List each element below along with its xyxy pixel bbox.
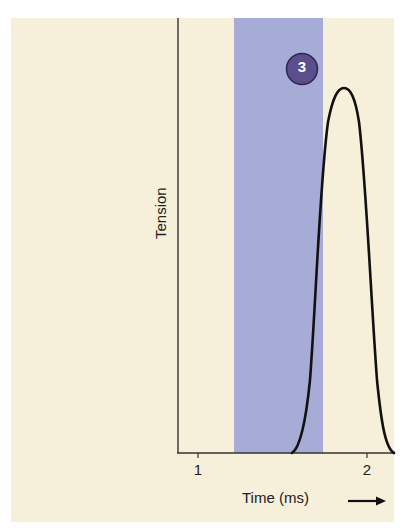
tension-chart	[0, 0, 410, 528]
badge-label: 3	[286, 58, 318, 80]
x-axis-label: Time (ms)	[242, 489, 309, 506]
x-tick-label-2: 2	[357, 461, 377, 478]
y-axis-label: Tension	[152, 187, 169, 239]
arrow-right-icon	[348, 497, 386, 506]
x-tick-label-1: 1	[188, 461, 208, 478]
